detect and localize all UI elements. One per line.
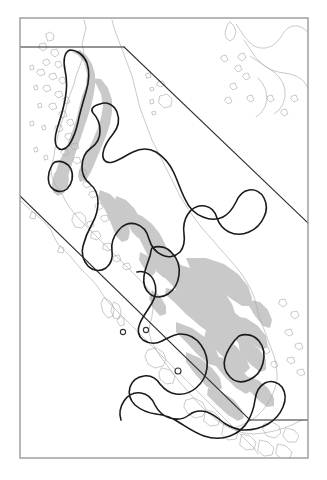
map-canvas (0, 0, 327, 480)
locality-marker (143, 327, 148, 332)
locality-marker (120, 329, 125, 334)
locality-marker (175, 368, 181, 374)
distribution-map-figure: Malay Peninsula and adjacent Sundaland (0, 0, 327, 480)
